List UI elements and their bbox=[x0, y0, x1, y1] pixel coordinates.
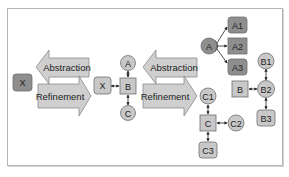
a-root-label: A bbox=[206, 42, 212, 52]
b2-label: B2 bbox=[260, 85, 271, 95]
b1-node: B1 bbox=[258, 53, 274, 69]
a1-label: A1 bbox=[232, 21, 243, 31]
a3-node: A3 bbox=[228, 59, 247, 75]
edge-a-a3 bbox=[217, 49, 227, 63]
b-label: B bbox=[237, 85, 243, 95]
right-refinement-label: Refinement bbox=[141, 91, 190, 102]
right-abstraction-arrow: Abstraction bbox=[143, 50, 198, 84]
left-abstraction-arrow: Abstraction bbox=[36, 50, 91, 84]
left-abstraction-label: Abstraction bbox=[43, 62, 91, 73]
c2-node: C2 bbox=[228, 115, 244, 131]
a1-node: A1 bbox=[228, 17, 247, 33]
a-root-node: A bbox=[201, 38, 217, 54]
b1-label: B1 bbox=[260, 57, 271, 67]
c3-node: C3 bbox=[199, 142, 217, 158]
middle-a-node: A bbox=[121, 56, 136, 71]
b-node: B bbox=[232, 81, 248, 97]
c2-label: C2 bbox=[230, 119, 242, 129]
c1-node: C1 bbox=[200, 88, 216, 104]
c-label: C bbox=[205, 119, 212, 129]
middle-b-node: B bbox=[120, 78, 136, 94]
middle-b-label: B bbox=[125, 82, 131, 92]
right-abstraction-label: Abstraction bbox=[150, 62, 198, 73]
diagram-canvas: X Abstraction Refinement X B A C Abstrac… bbox=[0, 0, 289, 177]
b3-label: B3 bbox=[260, 114, 271, 124]
middle-a-label: A bbox=[125, 59, 131, 69]
a2-node: A2 bbox=[228, 38, 247, 54]
left-refinement-label: Refinement bbox=[36, 91, 85, 102]
left-x-node: X bbox=[13, 74, 32, 91]
edge-a-a1 bbox=[217, 27, 227, 43]
b3-node: B3 bbox=[257, 110, 275, 126]
left-x-label: X bbox=[19, 78, 25, 88]
right-refinement-arrow: Refinement bbox=[141, 76, 197, 116]
middle-c-label: C bbox=[125, 109, 132, 119]
middle-c-node: C bbox=[121, 106, 136, 121]
c3-label: C3 bbox=[202, 146, 214, 156]
left-refinement-arrow: Refinement bbox=[36, 76, 91, 116]
b2-node: B2 bbox=[258, 81, 275, 98]
middle-x-node: X bbox=[94, 77, 111, 94]
c1-label: C1 bbox=[202, 92, 214, 102]
middle-x-label: X bbox=[99, 81, 105, 91]
c-node: C bbox=[200, 115, 216, 131]
a2-label: A2 bbox=[232, 42, 243, 52]
a3-label: A3 bbox=[232, 63, 243, 73]
